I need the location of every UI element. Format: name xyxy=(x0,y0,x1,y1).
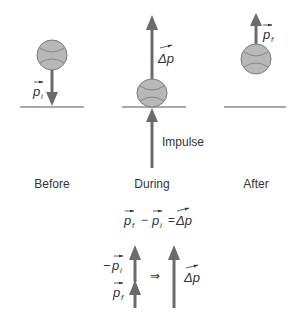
svg-text:p: p xyxy=(262,27,270,42)
svg-text:−: − xyxy=(103,258,111,273)
panel-after: p f After xyxy=(224,13,286,191)
vector-delta-p-arrow-icon xyxy=(168,245,180,308)
label-pf: p f xyxy=(112,283,124,302)
equation-term-pi: p i xyxy=(151,211,162,230)
momentum-arrow-down-icon xyxy=(46,70,58,106)
vector-label-pi: p i xyxy=(32,82,43,101)
caption-during: During xyxy=(134,177,169,191)
svg-text:p: p xyxy=(151,213,159,228)
momentum-change-arrow-up-icon xyxy=(146,15,158,80)
caption-after: After xyxy=(243,177,268,191)
panel-during: Δp Impulse During xyxy=(122,15,204,191)
equation-result-delta-p: Δp xyxy=(175,208,192,228)
svg-text:p: p xyxy=(112,285,120,300)
momentum-equation: p f − p i = Δp xyxy=(123,208,192,230)
svg-text:f: f xyxy=(271,35,274,44)
vector-label-delta-p: Δp xyxy=(157,45,174,66)
svg-text:f: f xyxy=(132,221,135,230)
impulse-label: Impulse xyxy=(162,135,204,149)
svg-text:p: p xyxy=(32,84,40,99)
vector-sum-diagram: − p i p f ⇒ Δp xyxy=(103,245,200,308)
label-minus-pi: − p i xyxy=(103,256,123,275)
svg-text:Δp: Δp xyxy=(157,51,174,66)
equation-minus: − xyxy=(141,213,148,227)
equation-term-pf: p f xyxy=(123,211,135,230)
impulse-arrow-up-icon xyxy=(146,108,158,168)
momentum-arrow-up-icon xyxy=(250,13,262,45)
svg-text:p: p xyxy=(123,213,131,228)
vector-pf-arrow-icon xyxy=(129,280,141,308)
ball-icon xyxy=(137,79,167,107)
equation-equals: = xyxy=(168,213,175,227)
svg-text:i: i xyxy=(41,92,43,101)
implies-symbol: ⇒ xyxy=(150,269,160,283)
ball-icon xyxy=(241,44,271,74)
svg-text:Δp: Δp xyxy=(183,270,200,285)
vector-minus-pi-arrow-icon xyxy=(129,245,141,282)
momentum-diagram: p i Before Δp Impulse During xyxy=(0,0,302,323)
panel-before: p i Before xyxy=(20,40,84,191)
svg-text:i: i xyxy=(120,266,122,275)
caption-before: Before xyxy=(34,177,70,191)
label-delta-p: Δp xyxy=(183,265,200,285)
vector-label-pf: p f xyxy=(262,25,274,44)
svg-text:Δp: Δp xyxy=(175,213,192,228)
svg-text:f: f xyxy=(121,293,124,302)
svg-text:p: p xyxy=(111,258,119,273)
svg-text:i: i xyxy=(160,221,162,230)
ball-icon xyxy=(37,40,67,70)
